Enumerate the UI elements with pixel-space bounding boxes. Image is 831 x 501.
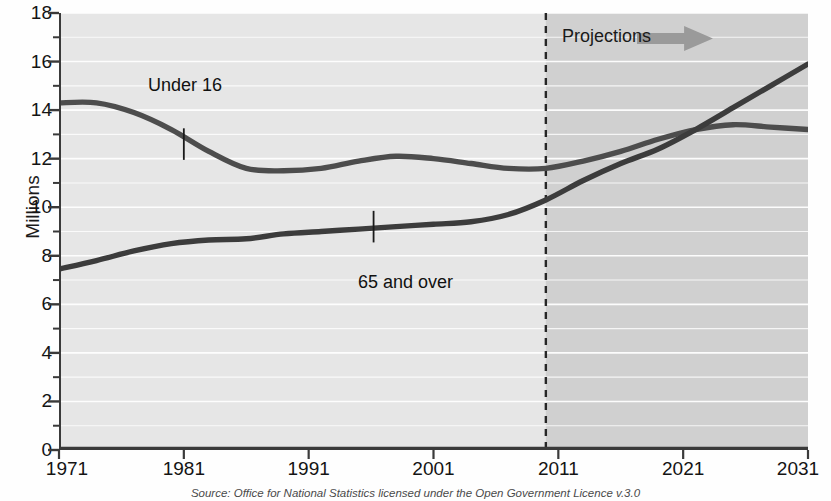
x-tick-label-2011: 2011 (538, 458, 579, 480)
annotation-65-and-over: 65 and over (358, 272, 453, 293)
x-tick-label-2001: 2001 (412, 458, 454, 480)
x-tick-label-2031: 2031 (777, 458, 819, 480)
annotation-projections: Projections (562, 26, 651, 47)
source-note: Source: Office for National Statistics l… (0, 487, 831, 499)
x-tick-label-1971: 1971 (46, 458, 88, 480)
x-tick-label-1981: 1981 (163, 458, 205, 480)
x-tick-label-1991: 1991 (288, 458, 330, 480)
x-tick-label-2021: 2021 (662, 458, 704, 480)
annotation-under-16: Under 16 (148, 75, 222, 96)
chart-figure: Millions 024681012141618 197119811991200… (0, 0, 831, 501)
